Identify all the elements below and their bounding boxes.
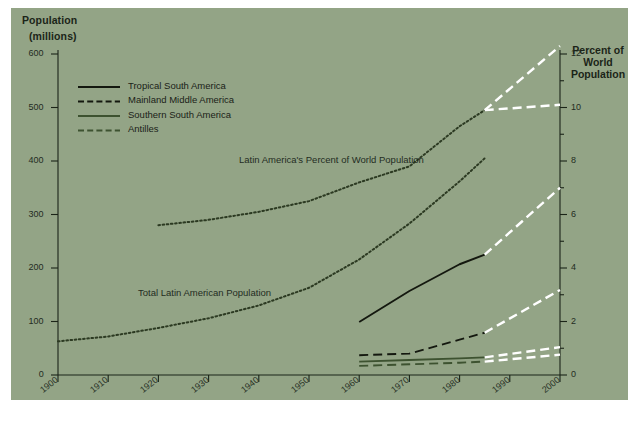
legend-label-1: Mainland Middle America [128,95,234,106]
right-tick-0: 0 [571,369,576,379]
right-tick-10: 10 [571,102,581,112]
left-axis-title-line1: Population [22,14,77,26]
legend-label-3: Antilles [128,124,159,135]
legend-label-2: Southern South America [128,110,231,121]
right-axis-title-line3: Population [563,68,633,80]
series-latin-america-s-percent-of-world-population-projection-low [485,105,560,110]
series-antilles-projection [485,355,560,362]
annotation-percent-world-population: Latin America's Percent of World Populat… [239,155,424,166]
left-tick-500: 500 [28,102,43,112]
right-tick-12: 12 [571,48,581,58]
left-tick-200: 200 [28,262,43,272]
chart-canvas [0,0,638,424]
left-axis-title-line2: (millions) [29,30,77,42]
left-tick-600: 600 [28,48,43,58]
legend-label-0: Tropical South America [128,81,226,92]
left-tick-100: 100 [28,316,43,326]
series-latin-america-s-percent-of-world-population-projection-high [485,46,560,110]
right-tick-6: 6 [571,209,576,219]
annotation-total-population: Total Latin American Population [138,288,271,299]
left-tick-0: 0 [39,369,44,379]
series-mainland-middle-america [359,333,485,355]
series-antilles [359,362,485,366]
series-tropical-south-america-projection [485,188,560,255]
series-mainland-middle-america-projection [485,290,560,333]
series-southern-south-america [359,357,485,361]
series-tropical-south-america [359,255,485,322]
left-tick-300: 300 [28,209,43,219]
series-total-latin-american-population [58,158,485,341]
left-tick-400: 400 [28,155,43,165]
legend-line-swatches [78,87,120,131]
right-tick-4: 4 [571,262,576,272]
right-tick-2: 2 [571,316,576,326]
series-latin-america-s-percent-of-world-population [158,110,484,225]
right-tick-8: 8 [571,155,576,165]
chart-figure: Population (millions) Percent of World P… [0,0,638,424]
